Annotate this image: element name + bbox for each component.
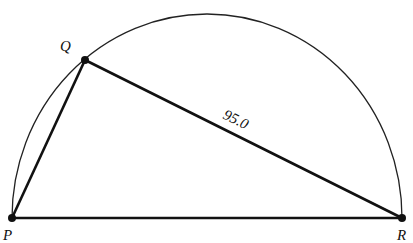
label-r: R — [396, 227, 406, 243]
segment-pq — [12, 60, 85, 218]
point-p — [8, 214, 16, 222]
label-p: P — [2, 227, 12, 243]
label-q: Q — [60, 38, 71, 54]
point-q — [81, 56, 89, 64]
geometry-diagram: Q P R 95.0 — [0, 0, 413, 243]
point-r — [398, 214, 406, 222]
